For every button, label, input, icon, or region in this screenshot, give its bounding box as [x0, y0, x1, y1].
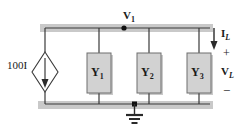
load-current-subscript: L	[225, 33, 230, 42]
source-label: 100I	[7, 60, 27, 71]
node-dot-v1	[121, 25, 126, 30]
load-voltage-symbol: V	[221, 65, 229, 77]
polarity-plus-label: +	[223, 47, 230, 59]
admittance-2-subscript: 2	[150, 72, 154, 81]
bottom-rail-shadow	[38, 101, 213, 109]
load-current-label: IL	[221, 28, 230, 42]
circuit-schematic-svg	[0, 0, 241, 136]
load-voltage-subscript: L	[229, 71, 234, 80]
load-current-arrow-head	[211, 41, 218, 50]
polarity-minus-label: −	[223, 84, 230, 97]
node-voltage-subscript: 1	[131, 15, 135, 24]
circuit-diagram: 100I Y1 Y2 Y3 V1 IL + VL −	[0, 0, 241, 136]
admittance-1-subscript: 1	[100, 72, 104, 81]
admittance-3-subscript: 3	[200, 72, 204, 81]
admittance-3-label: Y3	[191, 66, 204, 81]
load-voltage-label: VL	[221, 66, 234, 80]
admittance-2-symbol: Y	[141, 65, 150, 79]
admittance-2-label: Y2	[141, 66, 154, 81]
admittance-1-symbol: Y	[91, 65, 100, 79]
admittance-3-symbol: Y	[191, 65, 200, 79]
node-voltage-label: V1	[123, 10, 135, 24]
admittance-1-label: Y1	[91, 66, 104, 81]
node-voltage-symbol: V	[123, 9, 131, 21]
